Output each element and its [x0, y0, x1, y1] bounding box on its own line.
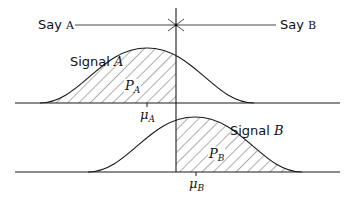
say-b-label: Say B: [280, 18, 316, 31]
mean-b-label: μB: [189, 177, 204, 190]
signal-a-label: Signal A: [70, 55, 123, 68]
say-a-label: Say A: [38, 18, 74, 31]
region-b-label: PB: [208, 147, 225, 160]
region-a-label: PA: [124, 79, 141, 92]
mean-a-label: μA: [140, 108, 155, 121]
signal-b-label: Signal B: [230, 124, 284, 137]
